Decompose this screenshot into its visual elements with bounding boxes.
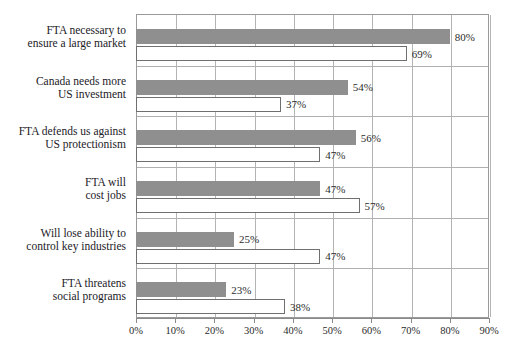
chart-title (0, 0, 515, 11)
bar (136, 80, 348, 95)
bar-value-label: 57% (361, 200, 385, 211)
bar-group: 25%47% (137, 218, 488, 269)
category-label-line: US protectionism (0, 138, 126, 151)
category-label-line: FTA defends us against (0, 125, 126, 138)
bar-value-label: 54% (349, 82, 373, 93)
bar-series-white: 47% (137, 249, 490, 264)
x-tick-label: 50% (312, 325, 352, 337)
bar-series-white: 69% (137, 46, 490, 61)
bar-group: 56%47% (137, 116, 488, 167)
bar-group: 23%38% (137, 268, 488, 319)
bar (136, 147, 320, 162)
x-tick (293, 318, 294, 323)
bar-series-white: 47% (137, 147, 490, 162)
bar (136, 46, 407, 61)
category-axis-labels: FTA necessary toensure a large marketCan… (0, 14, 131, 318)
category-label-line: social programs (0, 290, 126, 303)
bar (136, 282, 226, 297)
bar-value-label: 47% (321, 251, 345, 262)
bar (136, 130, 356, 145)
category-label-line: ensure a large market (0, 37, 126, 50)
bar-value-label: 23% (227, 284, 251, 295)
bar-value-label: 47% (321, 149, 345, 160)
category-label: FTA willcost jobs (0, 176, 126, 202)
bar (136, 181, 320, 196)
category-label: FTA necessary toensure a large market (0, 24, 126, 50)
bar-series-gray: 80% (137, 29, 490, 44)
x-axis-line (136, 318, 489, 319)
bar (136, 232, 234, 247)
bar (136, 299, 285, 314)
x-tick-label: 40% (273, 325, 313, 337)
bar-series-gray: 25% (137, 232, 490, 247)
category-label-line: FTA necessary to (0, 24, 126, 37)
bar-group: 47%57% (137, 167, 488, 218)
bar-series-white: 37% (137, 97, 490, 112)
category-label: FTA defends us againstUS protectionism (0, 125, 126, 151)
x-tick-label: 80% (430, 325, 470, 337)
category-label-line: Canada needs more (0, 75, 126, 88)
x-tick-label: 90% (469, 325, 509, 337)
x-tick (254, 318, 255, 323)
category-label-line: cost jobs (0, 189, 126, 202)
category-label-line: FTA threatens (0, 277, 126, 290)
bar-value-label: 47% (321, 183, 345, 194)
category-label-line: US investment (0, 88, 126, 101)
category-label: FTA threatenssocial programs (0, 277, 126, 303)
bar (136, 198, 360, 213)
x-tick (136, 318, 137, 323)
bar-series-gray: 56% (137, 130, 490, 145)
bar-series-gray: 47% (137, 181, 490, 196)
bar-value-label: 69% (408, 48, 432, 59)
plot-area: 80%69%54%37%56%47%47%57%25%47%23%38% (136, 14, 489, 318)
category-label-line: FTA will (0, 176, 126, 189)
x-tick-label: 20% (194, 325, 234, 337)
bar-value-label: 25% (235, 234, 259, 245)
x-tick (214, 318, 215, 323)
bar (136, 97, 281, 112)
category-label: Will lose ability tocontrol key industri… (0, 227, 126, 253)
x-tick (371, 318, 372, 323)
category-label-line: Will lose ability to (0, 227, 126, 240)
category-label: Canada needs moreUS investment (0, 75, 126, 101)
x-tick-label: 0% (116, 325, 156, 337)
bar-group: 54%37% (137, 66, 488, 117)
bar-value-label: 38% (286, 301, 310, 312)
bar-series-gray: 54% (137, 80, 490, 95)
bar-series-white: 57% (137, 198, 490, 213)
gridline-90 (490, 15, 491, 317)
category-label-line: control key industries (0, 240, 126, 253)
bar-value-label: 37% (282, 99, 306, 110)
bar-value-label: 80% (451, 31, 475, 42)
x-tick-label: 10% (155, 325, 195, 337)
x-tick (489, 318, 490, 323)
bar-value-label: 56% (357, 132, 381, 143)
x-tick-label: 30% (234, 325, 274, 337)
bar-group: 80%69% (137, 15, 488, 66)
x-tick-label: 70% (391, 325, 431, 337)
bar-series-gray: 23% (137, 282, 490, 297)
bar (136, 249, 320, 264)
x-tick (175, 318, 176, 323)
x-tick-label: 60% (351, 325, 391, 337)
bar (136, 29, 450, 44)
x-tick (450, 318, 451, 323)
x-tick (411, 318, 412, 323)
bar-series-white: 38% (137, 299, 490, 314)
x-tick (332, 318, 333, 323)
